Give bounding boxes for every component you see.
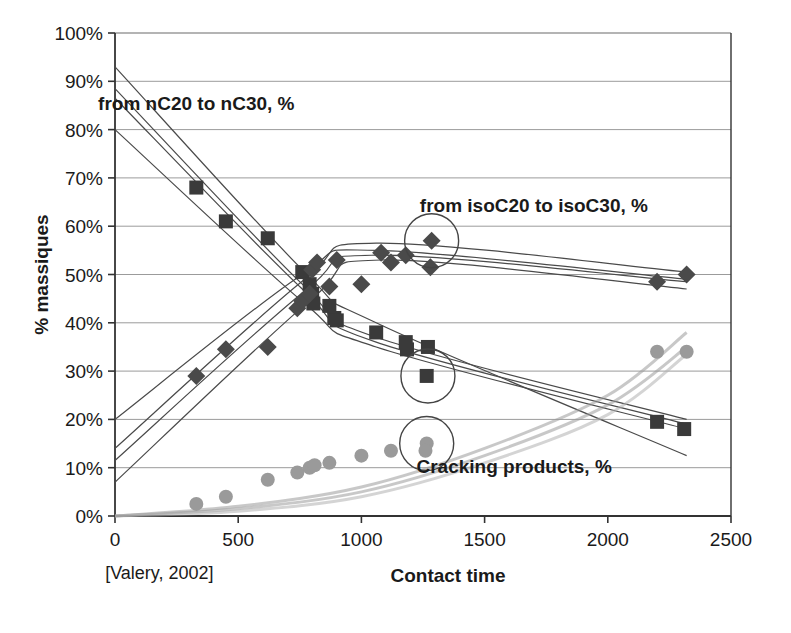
data-point-square <box>650 415 664 429</box>
data-point-square <box>369 325 383 339</box>
x-axis-tick-label: 2500 <box>710 529 752 550</box>
y-axis-tick-label: 20% <box>65 409 103 430</box>
y-axis-tick-label: 70% <box>65 168 103 189</box>
data-point-circle <box>261 473 275 487</box>
y-axis-tick-label: 50% <box>65 265 103 286</box>
x-axis-tick-label: 2000 <box>587 529 629 550</box>
y-axis-title: % massiques <box>31 214 52 334</box>
data-point-square <box>330 313 344 327</box>
data-point-circle <box>308 458 322 472</box>
data-point-diamond <box>320 278 338 296</box>
series-annotation-label: from nC20 to nC30, % <box>98 93 294 114</box>
source-citation: [Valery, 2002] <box>105 563 213 583</box>
data-point-circle <box>650 345 664 359</box>
data-point-square <box>189 181 203 195</box>
y-axis-tick-label: 40% <box>65 313 103 334</box>
data-point-circle <box>322 456 336 470</box>
data-point-circle <box>290 466 304 480</box>
x-axis-tick-label: 1000 <box>340 529 382 550</box>
data-point-diamond <box>259 338 277 356</box>
chart-figure: 0%10%20%30%40%50%60%70%80%90%100%0500100… <box>0 0 791 633</box>
data-point-circle <box>189 497 203 511</box>
data-point-circle <box>384 444 398 458</box>
data-point-square <box>261 231 275 245</box>
y-axis-tick-label: 80% <box>65 120 103 141</box>
y-axis-tick-label: 10% <box>65 458 103 479</box>
y-axis-tick-label: 30% <box>65 361 103 382</box>
data-point-square <box>219 214 233 228</box>
data-point-square <box>420 369 434 383</box>
y-axis-tick-label: 60% <box>65 216 103 237</box>
data-point-diamond <box>187 367 205 385</box>
data-point-square <box>677 422 691 436</box>
data-point-diamond <box>352 275 370 293</box>
data-point-circle <box>354 449 368 463</box>
x-axis-title: Contact time <box>390 565 505 586</box>
data-point-diamond <box>423 232 441 250</box>
data-point-circle <box>680 345 694 359</box>
y-axis-tick-label: 90% <box>65 71 103 92</box>
y-axis-tick-label: 100% <box>54 23 103 44</box>
x-axis-tick-label: 1500 <box>463 529 505 550</box>
data-point-diamond <box>328 251 346 269</box>
y-axis-tick-label: 0% <box>76 506 104 527</box>
data-point-square <box>322 299 336 313</box>
model-curve-isoC <box>115 255 687 460</box>
series-annotation-label: Cracking products, % <box>417 456 612 477</box>
x-axis-tick-label: 500 <box>222 529 254 550</box>
contact-time-conversion-chart: 0%10%20%30%40%50%60%70%80%90%100%0500100… <box>0 0 791 633</box>
data-point-circle <box>219 490 233 504</box>
x-axis-tick-label: 0 <box>110 529 121 550</box>
data-point-square <box>421 340 435 354</box>
data-point-diamond <box>217 340 235 358</box>
series-annotation-label: from isoC20 to isoC30, % <box>420 195 648 216</box>
